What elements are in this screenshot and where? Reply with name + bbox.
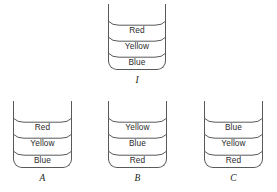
beaker-b: Yellow Blue Red	[108, 101, 167, 168]
liquid-layer: Yellow	[108, 38, 166, 54]
liquid-layers-c: Blue Yellow Red	[204, 119, 263, 168]
beaker-group-c: Blue Yellow Red	[204, 101, 263, 168]
liquid-layer: Red	[108, 152, 167, 168]
liquid-layers-b: Yellow Blue Red	[108, 119, 167, 168]
liquid-layer-label: Red	[35, 123, 51, 131]
liquid-layer-label: Blue	[129, 139, 146, 147]
beaker-group-i: Red Yellow Blue	[108, 4, 166, 70]
liquid-layer: Blue	[108, 135, 167, 151]
liquid-layer-label: Red	[129, 26, 145, 34]
liquid-layer: Red	[108, 22, 166, 38]
beaker-group-a: Red Yellow Blue	[13, 101, 72, 168]
liquid-layer: Red	[204, 152, 263, 168]
beaker-i: Red Yellow Blue	[108, 4, 166, 70]
beaker-label-i: I	[108, 76, 166, 86]
beaker-label-b: B	[108, 174, 167, 184]
beaker-group-b: Yellow Blue Red	[108, 101, 167, 168]
liquid-layer: Yellow	[13, 135, 72, 151]
liquid-layer: Blue	[108, 54, 166, 70]
liquid-layer-label: Yellow	[30, 139, 54, 147]
liquid-layers-i: Red Yellow Blue	[108, 22, 166, 70]
liquid-layer: Blue	[13, 152, 72, 168]
liquid-layer: Yellow	[108, 119, 167, 135]
liquid-layer: Red	[13, 119, 72, 135]
liquid-layer-label: Blue	[34, 156, 51, 164]
liquid-layer-label: Yellow	[125, 123, 149, 131]
liquid-layer-label: Blue	[225, 123, 242, 131]
liquid-layer-label: Yellow	[221, 139, 245, 147]
liquid-layer-label: Red	[130, 156, 146, 164]
liquid-layer: Blue	[204, 119, 263, 135]
liquid-layer-label: Blue	[128, 58, 145, 66]
beaker-a: Red Yellow Blue	[13, 101, 72, 168]
beaker-label-a: A	[13, 174, 72, 184]
beaker-c: Blue Yellow Red	[204, 101, 263, 168]
liquid-layer-label: Red	[226, 156, 242, 164]
liquid-layer-label: Yellow	[125, 42, 149, 50]
diagram-canvas: Red Yellow Blue	[0, 0, 277, 192]
beaker-label-c: C	[204, 174, 263, 184]
liquid-layers-a: Red Yellow Blue	[13, 119, 72, 168]
liquid-layer: Yellow	[204, 135, 263, 151]
